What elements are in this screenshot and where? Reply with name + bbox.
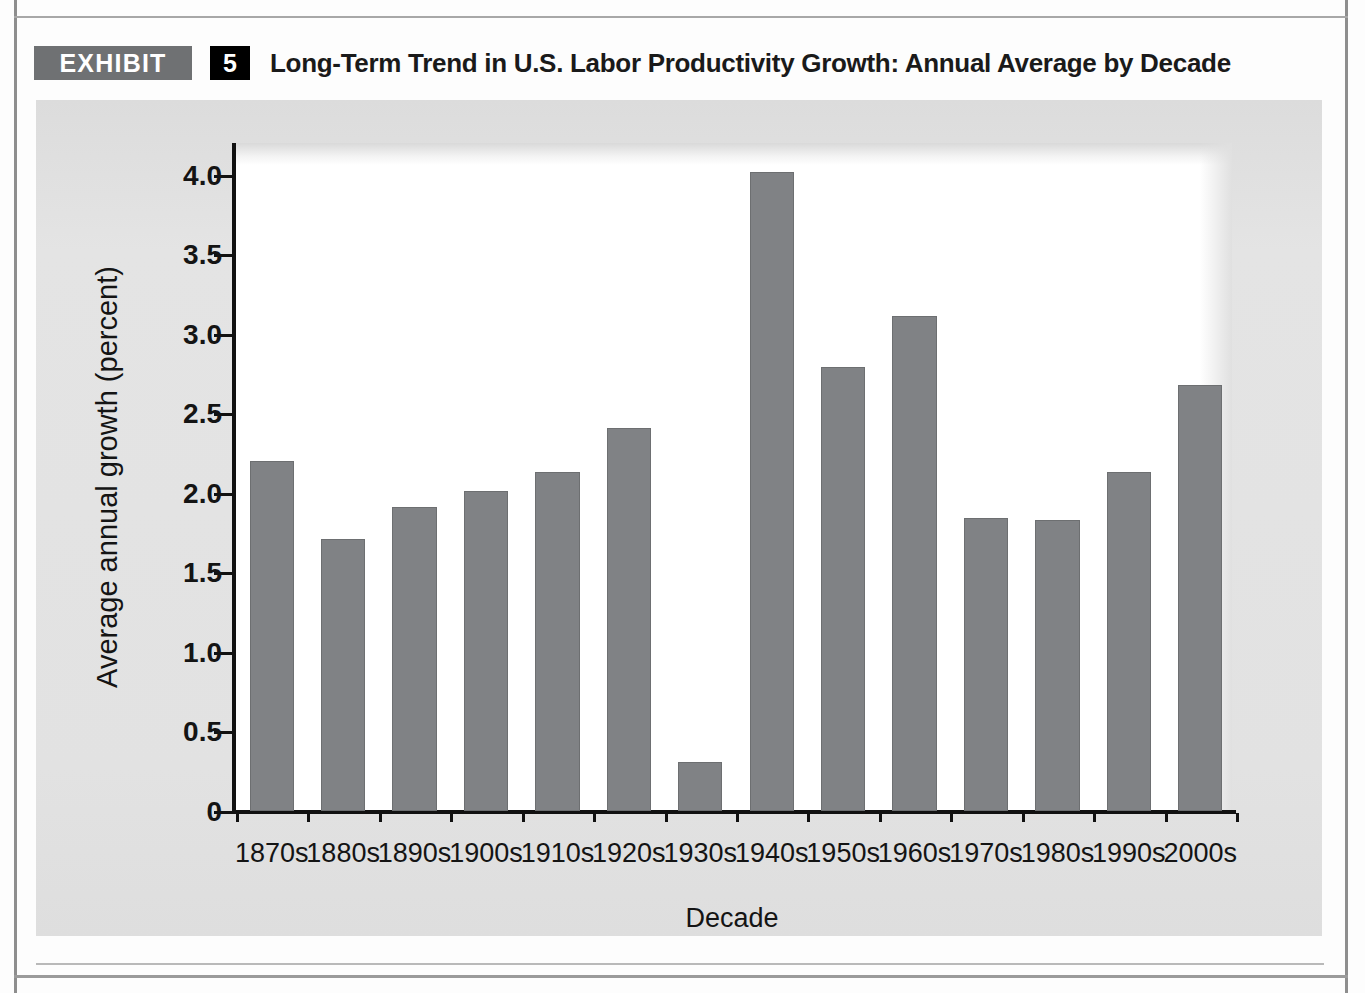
x-tick-label: 1940s [735,838,809,869]
x-tick-mark [807,813,810,822]
page-border-top [14,16,1348,18]
x-tick-label: 1950s [806,838,880,869]
x-tick-label: 1930s [663,838,737,869]
y-axis-title: Average annual growth (percent) [91,217,124,737]
y-tick-label: 3.5 [183,239,222,271]
x-tick-label: 1920s [592,838,666,869]
bar [678,762,722,811]
page-border-bottom [14,975,1348,978]
bar [750,172,794,811]
x-tick-label: 1970s [949,838,1023,869]
x-tick-mark [665,813,668,822]
x-tick-mark [879,813,882,822]
x-tick-mark [950,813,953,822]
y-tick-label: 1.0 [183,637,222,669]
y-tick-label: 2.5 [183,398,222,430]
exhibit-header: EXHIBIT 5 Long-Term Trend in U.S. Labor … [34,36,1324,92]
x-tick-mark-origin [236,813,239,822]
x-axis-title: Decade [232,903,1232,934]
y-tick-label: 0 [206,796,222,828]
bar [964,518,1008,811]
page-border-right [1345,0,1348,993]
bar [250,461,294,811]
bar [1035,520,1079,811]
x-tick-label: 1900s [449,838,523,869]
x-tick-mark [1093,813,1096,822]
x-tick-label: 1870s [235,838,309,869]
y-tick-label: 3.0 [183,319,222,351]
y-tick-label: 4.0 [183,160,222,192]
x-tick-mark [1165,813,1168,822]
page-border-left [14,0,17,993]
exhibit-title: Long-Term Trend in U.S. Labor Productivi… [270,44,1231,82]
plot-top-shadow [232,143,1232,165]
bar [607,428,651,811]
x-tick-label: 1880s [306,838,380,869]
bar [892,316,936,811]
x-axis-line [232,810,1236,814]
x-tick-mark [736,813,739,822]
bar [392,507,436,811]
x-tick-mark [593,813,596,822]
bar [1178,385,1222,811]
bar [1107,472,1151,811]
exhibit-page: EXHIBIT 5 Long-Term Trend in U.S. Labor … [0,0,1365,993]
footer-rule [36,963,1324,965]
x-tick-mark [1236,813,1239,822]
x-tick-mark [450,813,453,822]
y-axis-line [232,143,236,813]
plot-background [232,143,1232,811]
x-tick-label: 2000s [1163,838,1237,869]
y-tick-label: 2.0 [183,478,222,510]
x-tick-mark [307,813,310,822]
bar [821,367,865,811]
y-tick-label: 0.5 [183,716,222,748]
x-tick-mark [379,813,382,822]
x-tick-label: 1890s [378,838,452,869]
y-tick-label: 1.5 [183,557,222,589]
bar [535,472,579,811]
exhibit-badge-label: EXHIBIT [34,46,192,80]
bar [321,539,365,811]
exhibit-number-badge: 5 [210,46,250,80]
x-tick-label: 1980s [1021,838,1095,869]
bar [464,491,508,811]
x-tick-label: 1910s [521,838,595,869]
plot-area: 00.51.01.52.02.53.03.54.0 1870s1880s1890… [232,143,1240,815]
x-tick-mark [522,813,525,822]
x-tick-mark [1022,813,1025,822]
x-tick-label: 1990s [1092,838,1166,869]
x-tick-label: 1960s [878,838,952,869]
